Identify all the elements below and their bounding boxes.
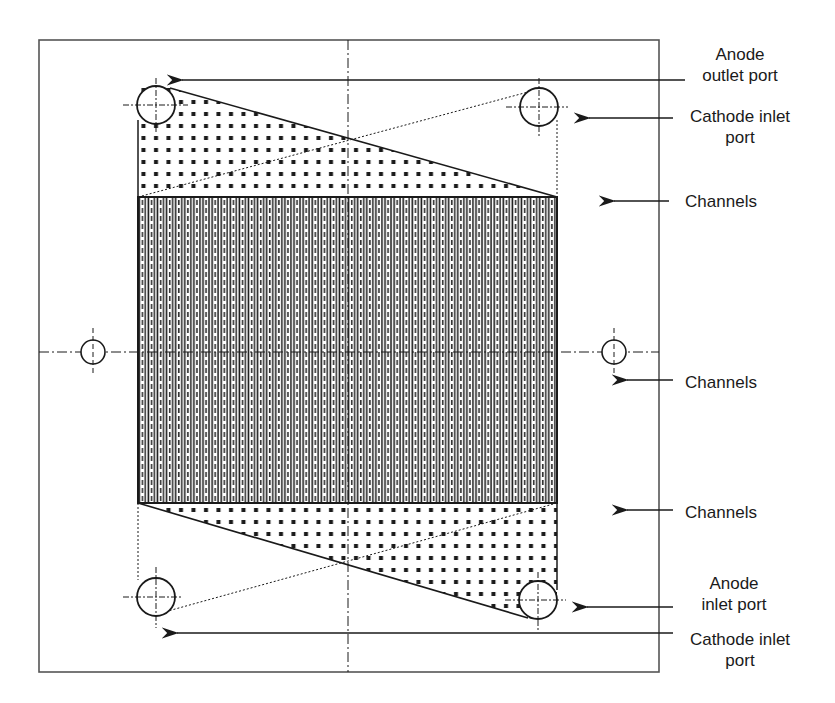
label-anode-inlet-port: Anode inlet port <box>684 573 784 615</box>
cathode-inlet-port-bottom-circle <box>123 567 183 628</box>
alignment-hole-right <box>602 328 626 376</box>
label-cathode-inlet-port-top: Cathode inlet port <box>676 106 804 148</box>
alignment-hole-left <box>81 328 105 376</box>
label-channels-3: Channels <box>676 502 766 523</box>
label-cathode-inlet-port-bottom: Cathode inlet port <box>676 629 804 671</box>
cathode-inlet-port-top-circle <box>506 78 568 138</box>
label-anode-outlet-port: Anode outlet port <box>685 44 795 86</box>
label-channels-2: Channels <box>676 372 766 393</box>
label-channels-1: Channels <box>676 191 766 212</box>
